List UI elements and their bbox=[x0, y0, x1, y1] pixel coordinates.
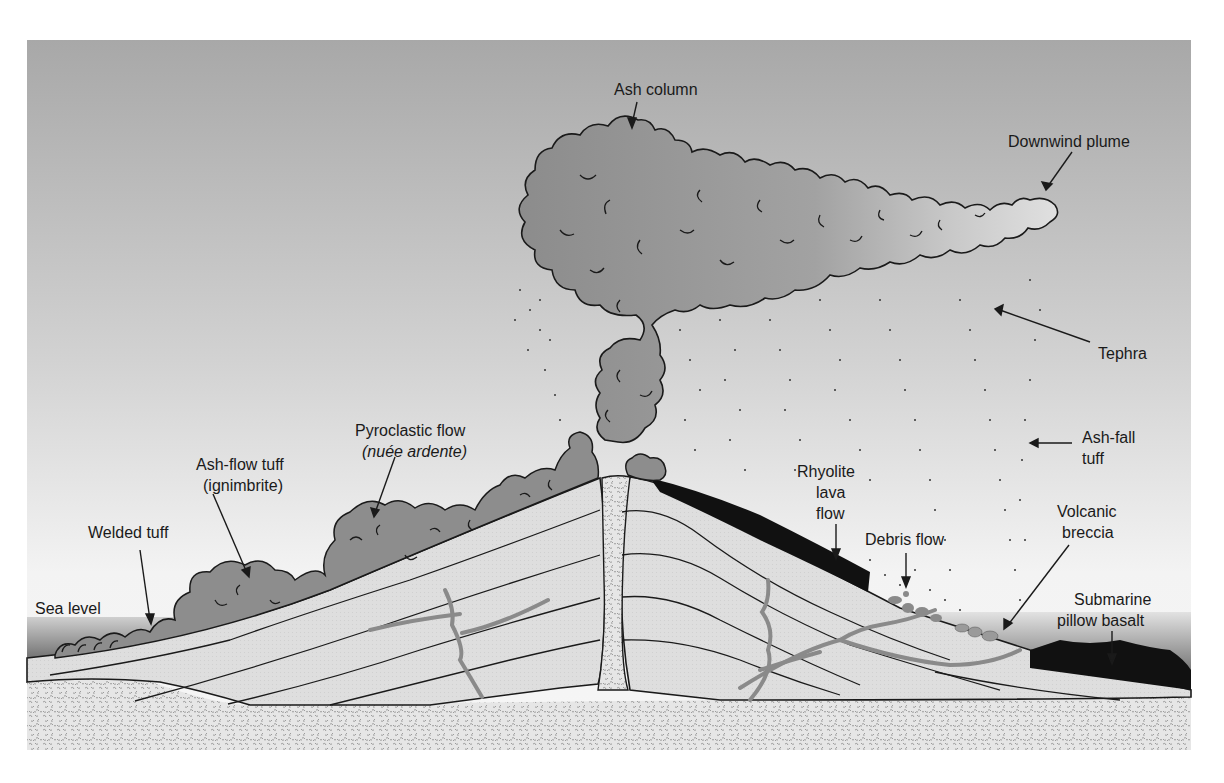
label-ash-column: Ash column bbox=[614, 81, 698, 98]
label-flow: flow bbox=[816, 505, 845, 522]
label-lava: lava bbox=[816, 484, 845, 501]
label-pyroclastic-flow: Pyroclastic flow bbox=[355, 422, 466, 439]
label-submarine: Submarine bbox=[1074, 591, 1151, 608]
label-debris-flow: Debris flow bbox=[865, 531, 945, 548]
label-volcanic: Volcanic bbox=[1057, 503, 1117, 520]
label-welded-tuff: Welded tuff bbox=[88, 524, 169, 541]
label-tuff: tuff bbox=[1082, 450, 1105, 467]
label-downwind-plume: Downwind plume bbox=[1008, 133, 1130, 150]
label-tephra: Tephra bbox=[1098, 345, 1147, 362]
label-pillow-basalt: pillow basalt bbox=[1057, 612, 1145, 629]
volcano-cross-section-diagram: Ash column Downwind plume Tephra Pyrocla… bbox=[0, 0, 1224, 783]
label-breccia: breccia bbox=[1062, 524, 1114, 541]
label-ignimbrite: (ignimbrite) bbox=[203, 477, 283, 494]
label-sea-level: Sea level bbox=[35, 600, 101, 617]
label-rhyolite: Rhyolite bbox=[797, 463, 855, 480]
label-ash-flow-tuff: Ash-flow tuff bbox=[196, 456, 284, 473]
label-ash-fall: Ash-fall bbox=[1082, 429, 1135, 446]
label-nuee-ardente: (nuée ardente) bbox=[362, 443, 467, 460]
